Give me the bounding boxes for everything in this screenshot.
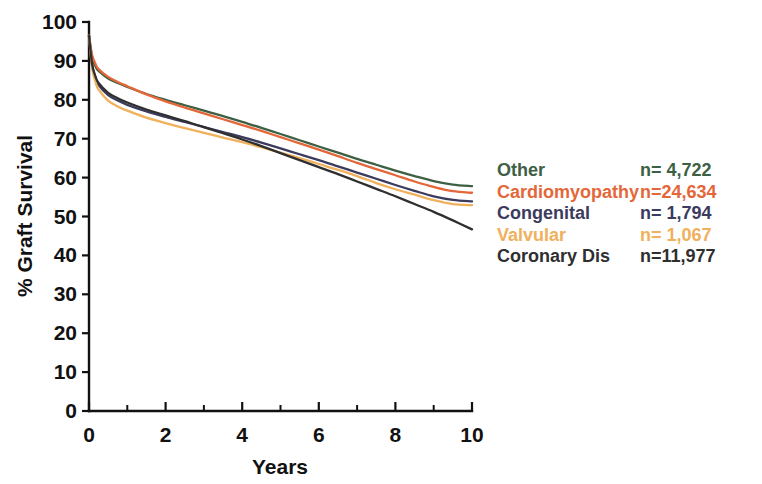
legend-label-valvular: Valvular: [497, 225, 566, 245]
legend-label-other: Other: [497, 160, 545, 180]
y-tick-label: 80: [54, 88, 77, 111]
legend-label-cardiomyopathy: Cardiomyopathy: [497, 182, 639, 202]
y-tick-label: 60: [54, 166, 77, 189]
legend-count-valvular: n= 1,067: [640, 225, 712, 245]
y-tick-label: 10: [54, 360, 77, 383]
y-tick-label: 70: [54, 127, 77, 150]
x-tick-label: 0: [83, 423, 95, 446]
y-tick-label: 100: [42, 10, 77, 33]
y-tick-label: 0: [65, 399, 77, 422]
x-tick-label: 8: [390, 423, 402, 446]
legend-count-congenital: n= 1,794: [640, 203, 712, 223]
legend-count-coronary-dis: n=11,977: [640, 246, 716, 266]
legend-count-other: n= 4,722: [640, 160, 712, 180]
legend-count-cardiomyopathy: n=24,634: [640, 182, 717, 202]
y-tick-label: 50: [54, 205, 77, 228]
x-tick-label: 10: [460, 423, 483, 446]
x-tick-label: 4: [236, 423, 248, 446]
y-axis-title: % Graft Survival: [13, 135, 36, 297]
y-tick-label: 20: [54, 321, 77, 344]
x-tick-label: 2: [160, 423, 172, 446]
y-tick-label: 90: [54, 49, 77, 72]
legend-label-congenital: Congenital: [497, 203, 590, 223]
x-axis-title: Years: [252, 455, 308, 478]
y-tick-label: 30: [54, 282, 77, 305]
graft-survival-chart: 0102030405060708090100 % Graft Survival …: [0, 0, 762, 484]
legend-label-coronary-dis: Coronary Dis: [497, 246, 610, 266]
y-tick-label: 40: [54, 243, 77, 266]
x-tick-label: 6: [313, 423, 325, 446]
